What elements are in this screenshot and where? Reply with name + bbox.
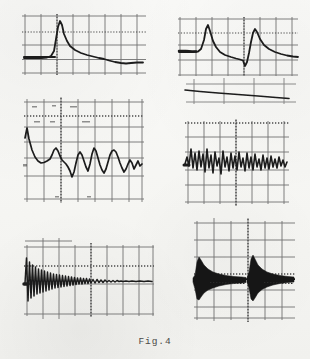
irregular-oscillation-waveform — [25, 128, 142, 177]
panel-3-irregular-oscillation-trace — [22, 96, 146, 206]
panel-6-svg — [190, 214, 298, 326]
panel-3-svg — [22, 96, 146, 206]
pulse-waveform — [24, 21, 143, 64]
panel-4-dense-oscillation-trace — [182, 118, 292, 208]
panel-1-svg — [20, 12, 148, 78]
grid-vertical-lines — [27, 97, 142, 203]
burst-envelope-waveform-2 — [247, 255, 294, 301]
grid-vertical-lines — [180, 17, 292, 76]
damped-ringing-waveform — [25, 258, 152, 301]
panel-5-svg — [22, 238, 156, 320]
panel-1-single-pulse-trace — [20, 12, 148, 78]
figure-caption: Fig.4 — [0, 336, 310, 347]
panel-5-damped-ringing-trace — [22, 238, 156, 320]
panel-6-burst-envelope-trace — [190, 214, 298, 326]
sloped-baseline-waveform — [185, 90, 289, 99]
pulse-baseline-stub — [179, 51, 196, 52]
panel-4-svg — [182, 118, 292, 208]
panel-2-svg — [176, 14, 300, 106]
panel-2-double-pulse-trace — [176, 14, 300, 106]
